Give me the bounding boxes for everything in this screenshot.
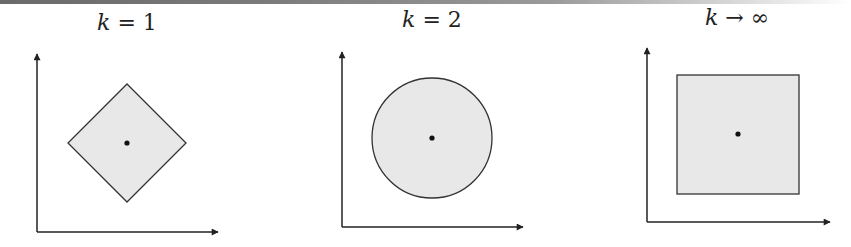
- center-dot: [429, 135, 434, 140]
- panel-title: k = 2: [402, 7, 462, 32]
- figure-canvas: k = 1 k = 2 k → ∞: [0, 0, 851, 247]
- center-dot: [124, 140, 129, 145]
- panel-title: k → ∞: [705, 5, 769, 30]
- panel-kinf: k → ∞: [647, 5, 830, 222]
- panel-k2: k = 2: [342, 7, 523, 227]
- center-dot: [735, 131, 740, 136]
- panel-title: k = 1: [97, 10, 157, 35]
- panel-k1: k = 1: [37, 10, 218, 232]
